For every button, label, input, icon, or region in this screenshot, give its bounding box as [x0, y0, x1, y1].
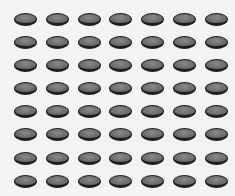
oval-disc [141, 36, 164, 49]
oval-disc [173, 36, 196, 49]
oval-disc [46, 128, 69, 141]
oval-disc [78, 59, 101, 72]
oval-disc [109, 36, 132, 49]
oval-disc [14, 152, 37, 165]
oval-disc [205, 105, 228, 118]
oval-disc [109, 59, 132, 72]
oval-disc [46, 59, 69, 72]
oval-disc [78, 152, 101, 165]
oval-disc [141, 13, 164, 26]
oval-disc [173, 175, 196, 188]
oval-disc [109, 13, 132, 26]
oval-disc [141, 105, 164, 118]
oval-disc [205, 152, 228, 165]
oval-disc [14, 175, 37, 188]
oval-disc [205, 59, 228, 72]
disc-grid [14, 13, 228, 188]
oval-disc [205, 36, 228, 49]
oval-disc [14, 36, 37, 49]
oval-disc [141, 59, 164, 72]
oval-disc [109, 105, 132, 118]
oval-disc [46, 105, 69, 118]
oval-disc [46, 175, 69, 188]
oval-disc [205, 13, 228, 26]
oval-disc [141, 152, 164, 165]
oval-disc [141, 82, 164, 95]
oval-disc [78, 36, 101, 49]
oval-disc [78, 13, 101, 26]
oval-disc [78, 175, 101, 188]
oval-disc [173, 59, 196, 72]
oval-disc [14, 128, 37, 141]
oval-disc [46, 152, 69, 165]
oval-disc [46, 36, 69, 49]
oval-disc [141, 128, 164, 141]
oval-disc [14, 59, 37, 72]
oval-disc [46, 13, 69, 26]
oval-disc [173, 152, 196, 165]
oval-disc [173, 82, 196, 95]
oval-disc [78, 82, 101, 95]
oval-disc [109, 128, 132, 141]
oval-disc [78, 128, 101, 141]
oval-disc [14, 82, 37, 95]
oval-disc [46, 82, 69, 95]
oval-disc [205, 82, 228, 95]
oval-disc [109, 175, 132, 188]
oval-disc [173, 105, 196, 118]
oval-disc [78, 105, 101, 118]
oval-disc [205, 128, 228, 141]
oval-disc [173, 13, 196, 26]
oval-disc [14, 105, 37, 118]
oval-disc [109, 82, 132, 95]
oval-disc [109, 152, 132, 165]
oval-disc [14, 13, 37, 26]
oval-disc [205, 175, 228, 188]
oval-disc [141, 175, 164, 188]
oval-disc [173, 128, 196, 141]
